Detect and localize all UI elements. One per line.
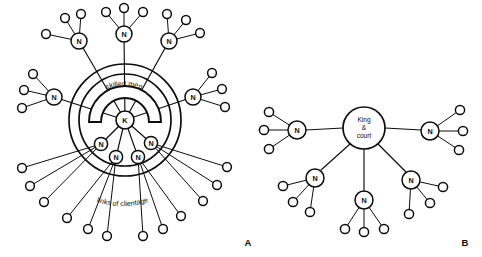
client-node bbox=[29, 70, 38, 79]
noble-node: N bbox=[161, 33, 177, 49]
noble-label: N bbox=[190, 93, 195, 102]
noble-label: N bbox=[51, 93, 56, 102]
noble-node: N bbox=[185, 89, 201, 105]
noble-node: N bbox=[131, 150, 144, 163]
noble-label: N bbox=[135, 153, 140, 162]
client-node bbox=[42, 30, 51, 39]
noble-label: N bbox=[427, 127, 432, 136]
client-node bbox=[199, 197, 208, 206]
client-node bbox=[359, 227, 368, 236]
noble-label: N bbox=[113, 153, 118, 162]
client-node bbox=[208, 69, 217, 78]
client-node bbox=[438, 182, 447, 191]
noble-node: N bbox=[116, 26, 132, 42]
client-node bbox=[425, 198, 434, 207]
client-node bbox=[379, 224, 388, 233]
noble-label: N bbox=[148, 139, 153, 148]
noble-label: N bbox=[361, 196, 366, 205]
client-node bbox=[221, 103, 230, 112]
client-node bbox=[455, 105, 464, 114]
client-node bbox=[139, 8, 148, 17]
client-node bbox=[84, 225, 93, 234]
client-node bbox=[177, 212, 186, 221]
client-node bbox=[61, 14, 70, 23]
client-node bbox=[20, 86, 29, 95]
client-node bbox=[163, 10, 172, 19]
link-noble-to-client bbox=[67, 157, 116, 218]
client-node bbox=[458, 126, 467, 135]
noble-label: N bbox=[294, 126, 299, 135]
panel-b: N N N N N bbox=[259, 105, 468, 248]
client-node bbox=[454, 145, 463, 154]
link-king-to-noble bbox=[321, 144, 350, 170]
client-node bbox=[218, 85, 227, 94]
client-node bbox=[278, 181, 287, 190]
client-node bbox=[182, 16, 191, 25]
noble-node: N bbox=[109, 150, 122, 163]
link-king-to-noble bbox=[378, 144, 406, 172]
client-node bbox=[120, 4, 129, 13]
king-court-line-2: & bbox=[362, 124, 367, 131]
link-k-to-noble bbox=[124, 34, 125, 120]
client-node bbox=[159, 225, 168, 234]
king-node-a: K bbox=[116, 111, 134, 129]
diagram-canvas: N N N N N bbox=[0, 0, 482, 257]
king-label: K bbox=[122, 116, 128, 125]
panel-letter-a: A bbox=[245, 237, 252, 248]
client-node bbox=[103, 232, 112, 241]
noble-label: N bbox=[312, 174, 317, 183]
client-node bbox=[340, 224, 349, 233]
noble-node: N bbox=[71, 33, 87, 49]
client-node bbox=[305, 207, 314, 216]
figure-root: N N N N N bbox=[0, 0, 482, 257]
link-king-to-noble bbox=[306, 128, 343, 130]
client-node bbox=[139, 232, 148, 241]
noble-label: N bbox=[76, 37, 81, 46]
client-node bbox=[63, 214, 72, 223]
client-node bbox=[77, 10, 86, 19]
client-node bbox=[18, 104, 27, 113]
noble-label: N bbox=[98, 140, 103, 149]
noble-label: N bbox=[166, 37, 171, 46]
noble-node: N bbox=[355, 191, 373, 209]
noble-node: N bbox=[421, 122, 439, 140]
link-noble-to-client bbox=[138, 157, 181, 216]
noble-node: N bbox=[144, 136, 157, 149]
client-node bbox=[404, 209, 413, 218]
noble-node: N bbox=[288, 121, 306, 139]
king-court-line-1: King bbox=[357, 116, 371, 124]
panel-a: N N N N N bbox=[18, 4, 252, 248]
noble-label: N bbox=[408, 176, 413, 185]
client-node bbox=[40, 198, 49, 207]
noble-label: N bbox=[121, 30, 126, 39]
noble-node: N bbox=[306, 169, 324, 187]
noble-node: N bbox=[94, 137, 107, 150]
client-node bbox=[288, 197, 297, 206]
client-node bbox=[102, 8, 111, 17]
noble-node: N bbox=[46, 89, 62, 105]
client-node bbox=[213, 181, 222, 190]
link-king-to-noble bbox=[385, 128, 421, 130]
client-node bbox=[264, 107, 273, 116]
noble-node: N bbox=[402, 171, 420, 189]
client-node bbox=[264, 144, 273, 153]
client-node bbox=[18, 164, 27, 173]
king-court-line-3: court bbox=[357, 132, 372, 139]
client-node bbox=[223, 163, 232, 172]
client-node bbox=[259, 125, 268, 134]
panel-letter-b: B bbox=[462, 237, 469, 248]
client-node bbox=[196, 29, 205, 38]
king-court-node: King & court bbox=[343, 107, 385, 149]
client-node bbox=[26, 182, 35, 191]
